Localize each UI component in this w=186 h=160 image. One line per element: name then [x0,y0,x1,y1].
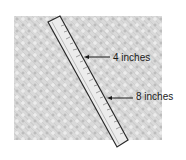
ruler-inner-edge [52,22,119,144]
arrow-4-inches [84,55,110,59]
label-8-inches: 8 inches [136,91,173,102]
ruler-diagram [0,0,186,160]
arrow-8-inches [107,96,133,100]
ruler [48,16,128,147]
ruler-body [48,16,128,147]
label-4-inches: 4 inches [113,52,150,63]
